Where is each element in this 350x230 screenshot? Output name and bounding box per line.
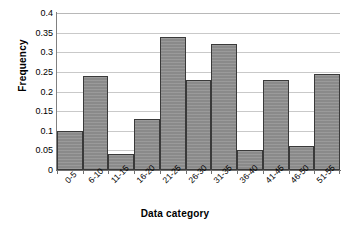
bar[interactable] [263,80,289,170]
bar-slot [314,13,340,170]
y-axis-tick-labels: 00.050.10.150.20.250.30.350.4 [8,0,53,230]
x-axis-tick-mark [263,170,264,174]
x-axis-tick-mark [134,170,135,174]
bar-slot [108,13,134,170]
bar-slot [83,13,109,170]
x-axis-tick-mark [211,170,212,174]
y-axis-tick-label: 0.15 [13,107,53,116]
x-axis-tick-mark [186,170,187,174]
y-axis-tick-label: 0 [13,166,53,175]
x-axis-tick-slot: 11-15 [108,170,134,210]
x-axis-tick-mark [83,170,84,174]
x-axis-title: Data category [0,208,350,219]
x-axis-tick-mark [314,170,315,174]
bar-slot [289,13,315,170]
y-axis-tick-label: 0.1 [13,127,53,136]
bar[interactable] [186,80,212,170]
y-axis-tick-label: 0.35 [13,29,53,38]
bar-slot [186,13,212,170]
bar[interactable] [211,44,237,170]
bar-slot [57,13,83,170]
bar-slot [211,13,237,170]
x-axis-tick-slot: 41-45 [263,170,289,210]
y-axis-tick-label: 0.05 [13,146,53,155]
x-axis-tick-mark [160,170,161,174]
x-axis-tick-mark [289,170,290,174]
y-axis-tick-label: 0.3 [13,48,53,57]
bar-slot [160,13,186,170]
x-axis-tick-slot: 26-30 [186,170,212,210]
x-axis-tick-slot: 6-10 [83,170,109,210]
x-axis-tick-label: 0-5 [63,169,79,185]
plot-area [57,13,340,170]
x-axis-tick-end [339,170,340,174]
bar[interactable] [160,37,186,170]
x-axis-tick-mark [57,170,58,174]
bar-slot [263,13,289,170]
x-axis-tick-slot: 36-40 [237,170,263,210]
bar[interactable] [314,74,340,170]
bar-slot [134,13,160,170]
x-axis-tick-slot: 51-55 [314,170,340,210]
x-axis-tick-labels: 0-56-1011-1516-2021-2526-3031-3536-4041-… [57,170,340,210]
y-axis-tick-label: 0.25 [13,68,53,77]
y-axis-tick-label: 0.2 [13,88,53,97]
x-axis-tick-slot: 16-20 [134,170,160,210]
y-axis-tick-label: 0.4 [13,9,53,18]
x-axis-tick-slot: 46-50 [289,170,315,210]
x-axis-tick-mark [237,170,238,174]
x-axis-tick-mark [108,170,109,174]
histogram-chart: Frequency 00.050.10.150.20.250.30.350.4 … [0,0,350,230]
x-axis-tick-slot: 0-5 [57,170,83,210]
bar[interactable] [134,119,160,170]
bar-series [57,13,340,170]
x-axis-tick-slot: 21-25 [160,170,186,210]
bar-slot [237,13,263,170]
bar[interactable] [83,76,109,170]
x-axis-tick-slot: 31-35 [211,170,237,210]
bar[interactable] [57,131,83,170]
